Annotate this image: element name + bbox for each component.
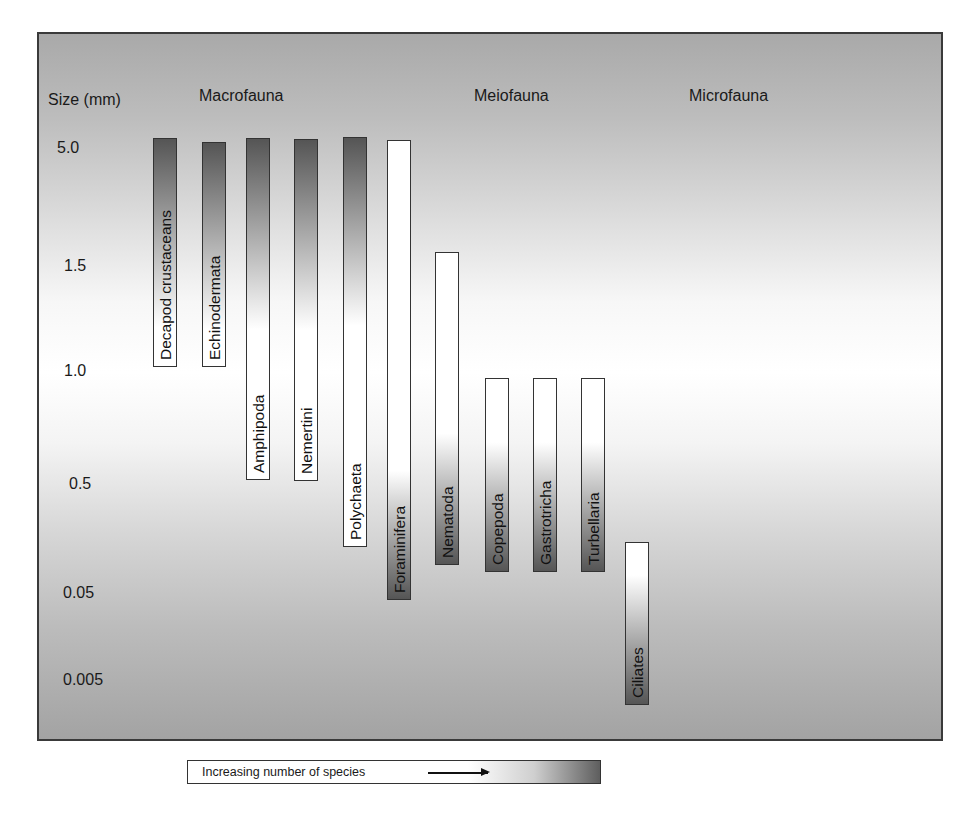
y-tick-label: 0.005 bbox=[63, 672, 103, 688]
group-header-macrofauna: Macrofauna bbox=[199, 88, 284, 104]
taxon-bar-turbellaria: Turbellaria bbox=[581, 378, 605, 572]
y-tick-label: 1.5 bbox=[64, 258, 86, 274]
taxon-bar-ciliates: Ciliates bbox=[625, 542, 649, 705]
taxon-bar-nematoda: Nematoda bbox=[435, 252, 459, 565]
taxon-bar-copepoda: Copepoda bbox=[485, 378, 509, 572]
y-tick-label: 0.5 bbox=[69, 476, 91, 492]
taxon-label: Echinodermata bbox=[207, 256, 223, 360]
y-tick-label: 0.05 bbox=[63, 585, 94, 601]
y-tick-label: 5.0 bbox=[57, 140, 79, 156]
group-header-microfauna: Microfauna bbox=[689, 88, 768, 104]
taxon-bar-foraminifera: Foraminifera bbox=[387, 140, 411, 600]
right-arrow-icon bbox=[428, 772, 488, 774]
taxon-label: Amphipoda bbox=[251, 395, 267, 473]
axis-title: Size (mm) bbox=[48, 92, 121, 108]
taxon-label: Ciliates bbox=[630, 647, 646, 698]
legend-label: Increasing number of species bbox=[202, 766, 365, 779]
taxon-label: Gastrotricha bbox=[538, 481, 554, 565]
taxon-bar-amphipoda: Amphipoda bbox=[246, 138, 270, 480]
group-header-meiofauna: Meiofauna bbox=[474, 88, 549, 104]
species-legend: Increasing number of species bbox=[187, 760, 601, 784]
taxon-bar-nemertini: Nemertini bbox=[294, 139, 318, 481]
taxon-bar-polychaeta: Polychaeta bbox=[343, 137, 367, 547]
taxon-label: Turbellaria bbox=[586, 492, 602, 565]
taxon-label: Nematoda bbox=[440, 486, 456, 558]
taxon-label: Decapod crustaceans bbox=[158, 210, 174, 360]
taxon-bar-gastrotricha: Gastrotricha bbox=[533, 378, 557, 572]
taxon-bar-decapod-crustaceans: Decapod crustaceans bbox=[153, 138, 177, 367]
taxon-label: Nemertini bbox=[299, 408, 315, 474]
taxon-label: Copepoda bbox=[490, 493, 506, 565]
taxon-label: Foraminifera bbox=[392, 506, 408, 593]
taxon-bar-echinodermata: Echinodermata bbox=[202, 142, 226, 367]
taxon-label: Polychaeta bbox=[348, 463, 364, 540]
y-tick-label: 1.0 bbox=[64, 363, 86, 379]
